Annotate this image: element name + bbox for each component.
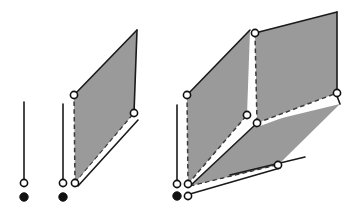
stage-3-cube-open-vertex-0 — [173, 180, 180, 187]
stage-2-square-open-vertex-1 — [71, 179, 78, 186]
stage-3-cube-filled-vertex-0 — [173, 192, 181, 200]
figure-root: Cell complex construction sequence Three… — [0, 0, 357, 213]
stage-3-cube-group — [173, 12, 341, 200]
stage-3-cube-open-vertex-4 — [243, 111, 250, 118]
stage-3-cube-open-vertex-5 — [251, 29, 258, 36]
stage-1-edge-filled-vertex-0 — [20, 193, 28, 201]
stage-1-edge-group — [20, 102, 28, 201]
stage-2-square-open-vertex-0 — [59, 179, 66, 186]
stage-2-square-face-0 — [74, 30, 137, 183]
stage-3-cube-open-vertex-2 — [184, 192, 191, 199]
construction-diagram — [0, 0, 357, 213]
stage-1-edge-open-vertex-0 — [20, 179, 27, 186]
stage-3-cube-open-vertex-1 — [184, 180, 191, 187]
stage-3-cube-face-1 — [255, 12, 337, 123]
stage-2-square-open-vertex-3 — [130, 109, 137, 116]
stage-3-cube-open-vertex-3 — [183, 91, 190, 98]
stage-3-cube-open-vertex-7 — [333, 89, 340, 96]
stage-2-square-group — [59, 30, 138, 201]
stage-2-square-filled-vertex-0 — [59, 193, 67, 201]
stage-2-square-open-vertex-2 — [70, 91, 77, 98]
stage-3-cube-open-vertex-6 — [253, 119, 260, 126]
stage-3-cube-open-vertex-8 — [274, 161, 281, 168]
